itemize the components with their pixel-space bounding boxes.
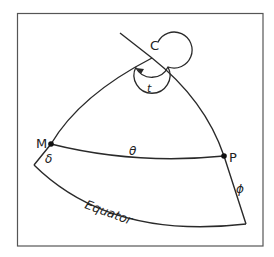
point-m [48,141,54,147]
spherical-triangle-diagram: C t M P θ δ ϕ Equator [0,0,274,257]
label-arc-theta: θ [129,144,137,158]
label-point-p: P [229,150,237,165]
label-arc-delta: δ [45,152,52,166]
point-p [221,153,227,159]
label-point-m: M [36,136,47,151]
label-arc-phi: ϕ [236,182,244,196]
meridian-c-to-p [120,33,246,224]
arc-m-to-p [51,144,224,159]
label-pole-c: C [150,38,159,53]
equator-arc [34,165,246,227]
label-equator: Equator [83,197,135,228]
label-angle-t: t [147,82,152,95]
